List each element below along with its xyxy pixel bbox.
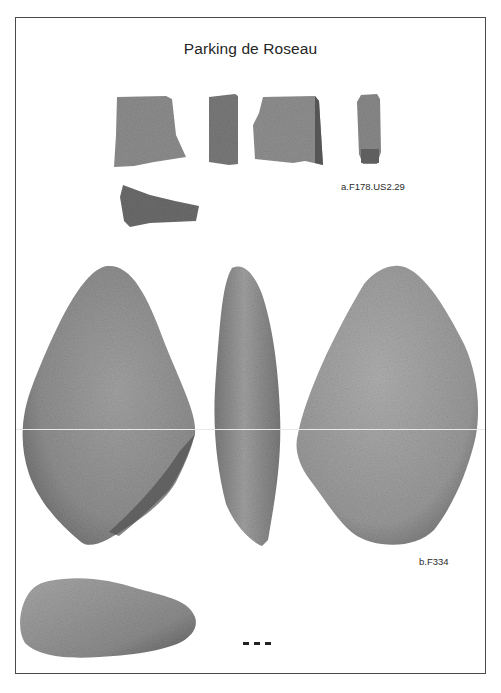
- sherd-a-edge-view: [357, 94, 385, 166]
- scale-bar-segment: [254, 642, 260, 645]
- scale-bar-segment: [243, 642, 249, 645]
- sherd-a-profile-view: [207, 94, 240, 167]
- object-a-label: a.F178.US2.29: [341, 181, 405, 192]
- scan-artifact-line: [16, 429, 485, 430]
- pebble-b-back-view: [294, 264, 480, 548]
- sherd-a-section-view: [120, 185, 202, 229]
- pebble-b-top-view: [19, 577, 199, 661]
- object-b-label: b.F334: [419, 556, 449, 567]
- scale-bar-segment: [265, 642, 271, 645]
- pebble-b-profile-view: [212, 264, 282, 548]
- sherd-a-front-view: [114, 95, 189, 168]
- pebble-b-front-view: [19, 264, 199, 548]
- plate-title: Parking de Roseau: [0, 40, 501, 58]
- sherd-a-back-view: [253, 95, 326, 168]
